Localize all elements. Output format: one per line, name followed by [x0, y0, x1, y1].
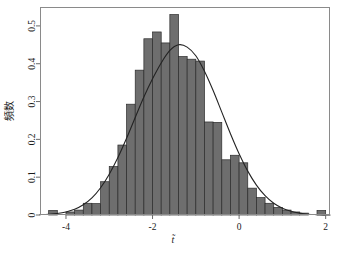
histogram-bar: [109, 167, 118, 215]
histogram-bar: [92, 204, 101, 215]
histogram-bar: [239, 163, 248, 215]
histogram-bar: [135, 70, 144, 215]
x-tick-label: -2: [149, 222, 157, 232]
histogram-bar: [161, 43, 170, 215]
histogram-bar: [83, 203, 92, 215]
histogram-figure: -4-202 00.10.20.30.40.5 t̃ 頻数: [0, 0, 343, 254]
histogram-chart: -4-202 00.10.20.30.40.5 t̃ 頻数: [0, 0, 343, 254]
histogram-bar: [204, 122, 213, 215]
histogram-bar: [187, 59, 196, 215]
histogram-bar: [196, 61, 205, 215]
y-tick-label: 0.4: [27, 58, 37, 70]
histogram-bar: [274, 207, 283, 215]
histogram-bar: [144, 39, 153, 215]
y-tick-label: 0.5: [27, 20, 37, 32]
x-tick-label: -4: [62, 222, 70, 232]
histogram-bar: [213, 122, 222, 215]
y-tick-label: 0: [27, 212, 37, 217]
histogram-bar: [248, 188, 257, 215]
y-tick-label: 0.2: [27, 133, 37, 145]
y-axis-title: 頻数: [3, 101, 15, 121]
histogram-bar: [265, 203, 274, 215]
histogram-bar: [179, 57, 188, 215]
histogram-bar: [222, 160, 231, 215]
x-tick-label: 0: [237, 222, 242, 232]
x-tick-label: 2: [323, 222, 328, 232]
histogram-bar: [230, 155, 239, 215]
histogram-bar: [153, 32, 162, 215]
histogram-bar: [256, 198, 265, 215]
y-tick-label: 0.3: [27, 95, 37, 107]
y-tick-label: 0.1: [27, 171, 37, 183]
